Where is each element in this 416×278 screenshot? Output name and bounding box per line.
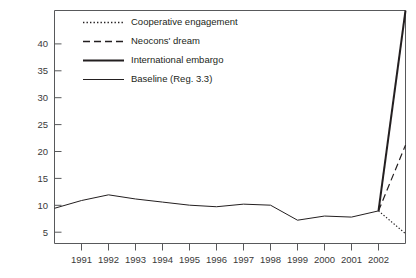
y-tick-label: 5 xyxy=(43,227,48,238)
legend-item-neocons-dream: Neocons' dream xyxy=(83,35,200,46)
x-axis-ticks: 1991 1992 1993 1994 1995 1996 1997 1998 … xyxy=(71,244,389,266)
y-tick-label: 20 xyxy=(37,146,48,157)
x-tick-label: 2000 xyxy=(314,254,335,265)
legend-label: Neocons' dream xyxy=(131,35,200,46)
legend-item-baseline: Baseline (Reg. 3.3) xyxy=(83,73,212,84)
x-tick-label: 1999 xyxy=(287,254,308,265)
legend-label: Baseline (Reg. 3.3) xyxy=(131,73,212,84)
series-international-embargo xyxy=(379,11,406,211)
y-tick-label: 25 xyxy=(37,119,48,130)
legend-label: Cooperative engagement xyxy=(131,16,238,27)
y-tick-label: 40 xyxy=(37,38,48,49)
line-chart: 5 10 15 20 25 30 35 40 1991 1992 1993 xyxy=(0,0,416,278)
x-tick-label: 1994 xyxy=(152,254,173,265)
legend-label: International embargo xyxy=(131,54,223,65)
x-tick-label: 1998 xyxy=(260,254,281,265)
plot-frame xyxy=(55,11,406,244)
x-tick-label: 1995 xyxy=(179,254,200,265)
y-tick-label: 10 xyxy=(37,200,48,211)
chart-legend: Cooperative engagement Neocons' dream In… xyxy=(83,16,238,84)
series-group xyxy=(55,11,406,234)
series-cooperative-engagement xyxy=(379,211,406,234)
x-tick-label: 2001 xyxy=(341,254,362,265)
x-tick-label: 2002 xyxy=(368,254,389,265)
x-tick-label: 1992 xyxy=(98,254,119,265)
x-tick-label: 1997 xyxy=(233,254,254,265)
y-tick-label: 15 xyxy=(37,173,48,184)
x-tick-label: 1996 xyxy=(206,254,227,265)
x-tick-label: 1993 xyxy=(125,254,146,265)
legend-item-international-embargo: International embargo xyxy=(83,54,223,65)
series-baseline xyxy=(55,195,379,220)
y-tick-label: 35 xyxy=(37,65,48,76)
legend-item-cooperative-engagement: Cooperative engagement xyxy=(83,16,238,27)
x-tick-label: 1991 xyxy=(71,254,92,265)
chart-container: 5 10 15 20 25 30 35 40 1991 1992 1993 xyxy=(0,0,416,278)
y-tick-label: 30 xyxy=(37,92,48,103)
